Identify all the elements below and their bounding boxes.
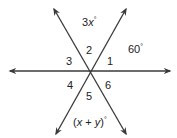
intersecting-lines-diagram: 3x° 60° (x + y)° 1 2 3 4 5 6 (0, 0, 177, 138)
angle-label-4: 4 (67, 79, 73, 91)
measure-label-x-plus-y: (x + y)° (73, 116, 107, 128)
angle-label-2: 2 (86, 44, 92, 56)
angle-label-5: 5 (86, 90, 92, 102)
angle-label-1: 1 (107, 55, 113, 67)
measure-label-3x: 3x° (82, 16, 97, 28)
angle-label-6: 6 (105, 79, 111, 91)
angle-label-3: 3 (66, 55, 72, 67)
measure-label-60: 60° (128, 43, 143, 55)
